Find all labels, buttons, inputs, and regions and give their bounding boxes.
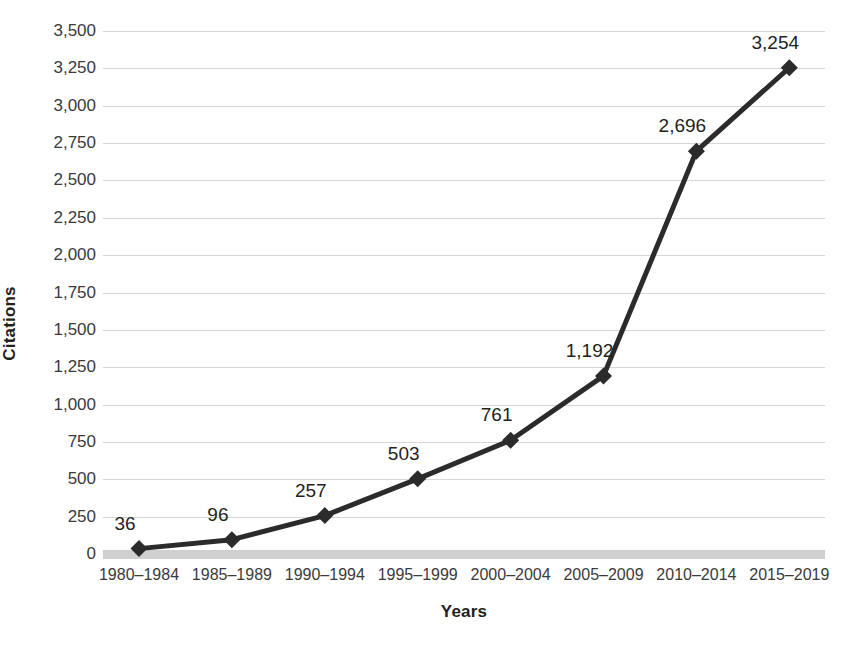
x-axis-tick-label: 2015–2019 <box>729 566 849 584</box>
data-point-label: 96 <box>207 504 228 526</box>
data-point-label: 503 <box>388 443 420 465</box>
x-axis-title: Years <box>103 602 825 622</box>
data-point-label: 761 <box>481 404 513 426</box>
series-marker <box>131 540 148 557</box>
series-marker <box>316 507 333 524</box>
series-line <box>139 68 789 549</box>
series-marker <box>409 470 426 487</box>
data-point-label: 2,696 <box>659 115 707 137</box>
citations-line-chart: Citations 3,5003,2503,0002,7502,5002,250… <box>0 0 850 647</box>
x-axis-tick-labels: 1980–19841985–19891990–19941995–19992000… <box>0 566 850 592</box>
data-point-label: 1,192 <box>566 340 614 362</box>
data-point-label: 36 <box>114 513 135 535</box>
series-marker <box>223 531 240 548</box>
series-graphic <box>0 0 850 647</box>
data-point-label: 257 <box>295 480 327 502</box>
data-point-label: 3,254 <box>752 32 800 54</box>
